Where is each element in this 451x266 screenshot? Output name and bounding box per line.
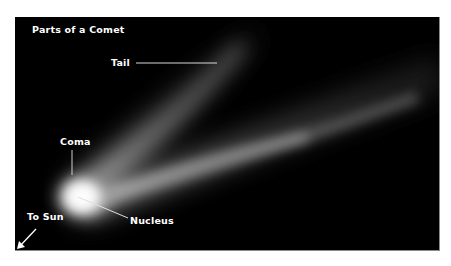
diagram-canvas: Parts of a Comet Tail Coma Nucleus To Su… <box>0 0 451 266</box>
comet-illustration-panel: Parts of a Comet Tail Coma Nucleus To Su… <box>15 17 440 251</box>
lower-tail <box>70 57 440 217</box>
label-coma: Coma <box>60 137 91 147</box>
diagram-title: Parts of a Comet <box>32 25 125 35</box>
comet-illustration <box>15 17 440 251</box>
label-nucleus: Nucleus <box>130 216 174 226</box>
label-to-sun: To Sun <box>27 212 64 222</box>
label-tail: Tail <box>111 58 130 68</box>
arrow-down-left-icon <box>17 229 36 249</box>
